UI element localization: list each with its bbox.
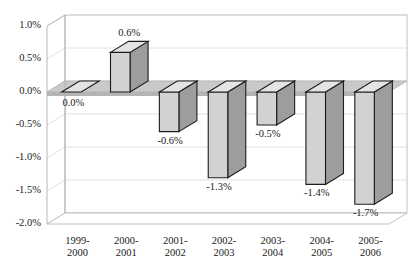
- x-tick-label: 2003-2004: [261, 235, 286, 258]
- y-tick-label: 0.5%: [19, 52, 41, 63]
- x-tick-label: 2001-2002: [163, 235, 188, 258]
- bar-column: [159, 81, 197, 132]
- bar-value-label: -1.3%: [206, 181, 232, 192]
- y-tick-label: 1.0%: [19, 19, 41, 30]
- bar-column: [306, 81, 344, 184]
- bar-chart-3d: 1.0%0.5%0.0%-0.5%-1.0%-1.5%-2.0% 0.0%0.6…: [0, 0, 408, 277]
- x-axis-tick-labels: 1999-20002000-20012001-20022002-20032003…: [65, 235, 383, 258]
- y-tick-label: -1.5%: [16, 184, 42, 195]
- bar-value-label: -1.7%: [353, 207, 379, 218]
- bar-value-label: -1.4%: [304, 187, 330, 198]
- bar-column: [208, 81, 246, 178]
- x-tick-label: 2005-2006: [358, 235, 383, 258]
- x-tick-label: 2004-2005: [309, 235, 334, 258]
- y-axis-tick-labels: 1.0%0.5%0.0%-0.5%-1.0%-1.5%-2.0%: [16, 19, 42, 228]
- y-tick-label: -2.0%: [16, 217, 42, 228]
- bar-column: [355, 81, 393, 204]
- bar-value-label: -0.5%: [255, 128, 281, 139]
- x-tick-label: 2000-2001: [114, 235, 139, 258]
- bar-value-label: -0.6%: [157, 135, 183, 146]
- bar-column: [111, 41, 149, 92]
- chart-canvas: 1.0%0.5%0.0%-0.5%-1.0%-1.5%-2.0% 0.0%0.6…: [0, 0, 408, 277]
- x-tick-label: 2002-2003: [212, 235, 237, 258]
- y-tick-label: -0.5%: [16, 118, 42, 129]
- bar-value-label: 0.0%: [62, 97, 84, 108]
- x-tick-label: 1999-2000: [65, 235, 90, 258]
- bar-value-label: 0.6%: [118, 27, 140, 38]
- y-tick-label: -1.0%: [16, 151, 42, 162]
- y-tick-label: 0.0%: [19, 85, 41, 96]
